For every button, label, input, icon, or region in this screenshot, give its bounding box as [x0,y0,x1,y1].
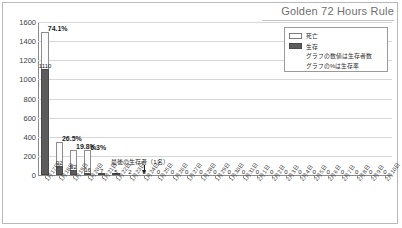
legend-item-death: 死亡 [289,31,383,41]
legend-label-survive: 生存 [306,42,318,51]
gridline [38,79,392,80]
legend-note-values: グラフの数値は生存者数 [289,52,383,62]
annotation-arrow-head [142,170,146,174]
bar-segment-survive [41,69,48,175]
y-axis-tick-label: 1400 [6,37,36,46]
page-title: Golden 72 Hours Rule [281,5,394,17]
gridline [38,137,392,138]
legend-note-percent: グラフの%は生存率 [289,62,383,72]
legend: 死亡 生存 グラフの数値は生存者数 グラフの%は生存率 [284,27,388,72]
gridline [38,118,392,119]
bar-percent-label: 74.1% [48,25,68,32]
y-axis-tick-label: 800 [6,94,36,103]
gridline [38,22,392,23]
y-axis-tick-label: 0 [6,171,36,180]
legend-swatch-death-icon [289,33,302,39]
legend-label-death: 死亡 [306,31,318,40]
bar-column[interactable] [41,32,48,175]
y-axis-tick-label: 400 [6,132,36,141]
gridline [38,99,392,100]
legend-swatch-survive-icon [289,43,302,49]
y-axis-tick-label: 200 [6,151,36,160]
title-underline [262,20,394,21]
chart-screenshot: Golden 72 Hours Rule 0200400600800100012… [0,0,402,228]
bar-value-label: 1110 [38,63,52,69]
annotation-label: 最後の生存者（1名） [111,157,168,166]
legend-item-survive: 生存 [289,42,383,52]
y-axis-tick-label: 600 [6,113,36,122]
y-axis-tick-label: 1200 [6,56,36,65]
y-axis-tick-label: 1000 [6,75,36,84]
bar-percent-label: 6.3% [90,144,106,151]
y-axis-tick-label: 1600 [6,18,36,27]
bar-percent-label: 26.5% [62,135,82,142]
